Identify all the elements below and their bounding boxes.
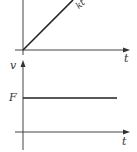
diagram-canvas <box>0 0 137 152</box>
bottom-x-axis-label: t <box>122 136 126 147</box>
bottom-y-axis-label: v <box>10 60 16 71</box>
bottom-y-arrow-icon <box>21 60 26 67</box>
bottom-graph <box>15 60 130 150</box>
top-x-axis-label: t <box>124 53 128 64</box>
bottom-x-arrow-icon <box>123 130 130 135</box>
bottom-level-label: F <box>9 92 17 103</box>
top-graph <box>15 0 130 55</box>
top-diagonal-line <box>23 0 73 50</box>
